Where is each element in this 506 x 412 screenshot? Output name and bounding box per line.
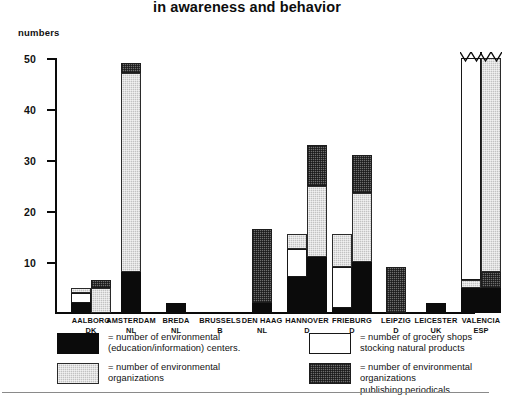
- bar-segment-centers: [252, 303, 272, 313]
- bar-segment-centers: [287, 277, 307, 313]
- bar-segment-organizations: [121, 73, 141, 272]
- legend-swatch-shops: [309, 333, 351, 354]
- bar-segment-periodicals: [386, 267, 406, 313]
- legend-item-shops: = number of grocery shops stocking natur…: [309, 332, 472, 355]
- legend-label-shops: = number of grocery shops stocking natur…: [360, 332, 472, 355]
- y-axis-label: numbers: [18, 27, 60, 38]
- bar-segment-centers: [461, 288, 481, 314]
- y-axis-tick-label: 40: [24, 104, 36, 116]
- bar-segment-shops: [332, 267, 352, 308]
- bar-segment-shops: [287, 249, 307, 277]
- bar-segment-organizations: [287, 234, 307, 249]
- legend-swatch-centers: [57, 333, 99, 354]
- y-axis-tick: 40: [47, 109, 55, 111]
- chart-legend: = number of environmental (education/inf…: [57, 332, 489, 390]
- legend-label-organizations: = number of environmental organizations: [108, 362, 220, 385]
- bar-segment-organizations: [481, 58, 501, 272]
- y-axis-tick: 10: [47, 262, 55, 264]
- bar-aalborg-2: [91, 280, 111, 313]
- bar-hannover-2: [307, 145, 327, 313]
- bar-segment-organizations: [91, 288, 111, 314]
- y-axis-tick: 30: [47, 160, 55, 162]
- bar-segment-periodicals: [481, 272, 501, 287]
- bar-segment-centers: [481, 288, 501, 314]
- bar-valencia-2: [481, 58, 501, 313]
- chart-title: in awareness and behavior: [0, 0, 494, 15]
- bar-segment-centers: [352, 262, 372, 313]
- bar-den-haag-1: [252, 229, 272, 313]
- axis-break-zigzag-icon: [480, 49, 502, 60]
- legend-swatch-periodicals: [309, 363, 351, 384]
- bar-segment-shops: [71, 293, 91, 303]
- y-axis-tick-label: 10: [24, 257, 36, 269]
- bar-segment-periodicals: [121, 63, 141, 73]
- y-axis-tick: 50: [47, 58, 55, 60]
- x-axis-label-city: VALENCIA: [451, 316, 506, 326]
- bar-segment-centers: [166, 303, 186, 313]
- legend-label-centers: = number of environmental (education/inf…: [108, 332, 240, 355]
- plot-area: 1020304050: [55, 58, 475, 313]
- bar-segment-centers: [332, 308, 352, 313]
- legend-item-centers: = number of environmental (education/inf…: [57, 332, 240, 355]
- bar-segment-organizations: [332, 234, 352, 267]
- bar-segment-organizations: [461, 280, 481, 288]
- axis-break-zigzag-icon: [460, 49, 482, 60]
- bar-segment-centers: [426, 303, 446, 313]
- y-axis-tick-label: 30: [24, 155, 36, 167]
- bar-segment-centers: [71, 303, 91, 313]
- bar-hannover-1: [287, 234, 307, 313]
- bar-segment-periodicals: [252, 229, 272, 303]
- y-axis-tick-label: 50: [24, 53, 36, 65]
- bar-frieburg-2: [352, 155, 372, 313]
- bar-frieburg-1: [332, 234, 352, 313]
- footer-rule: [2, 392, 489, 393]
- bar-aalborg-1: [71, 288, 91, 313]
- bar-valencia-1: [461, 58, 481, 313]
- bar-segment-periodicals: [91, 280, 111, 288]
- bar-breda-1: [166, 303, 186, 313]
- legend-swatch-organizations: [57, 363, 99, 384]
- bar-segment-organizations: [307, 186, 327, 257]
- bar-segment-shops: [461, 58, 481, 280]
- bar-segment-centers: [121, 272, 141, 313]
- bar-segment-periodicals: [352, 155, 372, 193]
- bar-leipzig-1: [386, 267, 406, 313]
- bar-amsterdam-1: [121, 63, 141, 313]
- y-axis-tick-label: 20: [24, 206, 36, 218]
- bar-segment-periodicals: [307, 145, 327, 186]
- bar-segment-centers: [307, 257, 327, 313]
- legend-item-organizations: = number of environmental organizations: [57, 362, 220, 385]
- y-axis-tick: 20: [47, 211, 55, 213]
- bar-segment-organizations: [352, 193, 372, 262]
- bar-leicester-1: [426, 303, 446, 313]
